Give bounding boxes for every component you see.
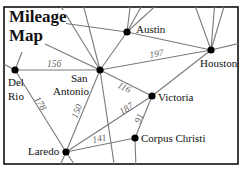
city-label-del-rio-line1: Del <box>8 76 24 88</box>
city-label-corpus-christi: Corpus Christi <box>141 132 205 144</box>
map-title-line1: Mileage <box>9 7 67 26</box>
city-node-houston[interactable] <box>207 46 214 53</box>
city-node-san-antonio[interactable] <box>96 66 103 73</box>
city-node-corpus-christi[interactable] <box>131 134 138 141</box>
city-node-austin[interactable] <box>123 28 130 35</box>
city-label-laredo: Laredo <box>28 145 60 157</box>
city-node-del-rio[interactable] <box>11 66 18 73</box>
city-node-laredo[interactable] <box>62 148 69 155</box>
mileage-map: Mileage Map 156 197 116 178 150 187 91 1… <box>0 0 242 174</box>
city-node-victoria[interactable] <box>148 92 155 99</box>
city-label-austin: Austin <box>136 23 166 35</box>
city-label-san-antonio-line1: San <box>71 72 88 84</box>
city-label-victoria: Victoria <box>158 91 193 103</box>
city-label-san-antonio-line2: Antonio <box>53 85 90 97</box>
map-title-line2: Map <box>9 26 43 45</box>
distance-delrio-sanantonio: 156 <box>47 59 62 69</box>
city-label-del-rio-line2: Rio <box>8 90 24 102</box>
city-label-houston: Houston <box>200 57 238 69</box>
